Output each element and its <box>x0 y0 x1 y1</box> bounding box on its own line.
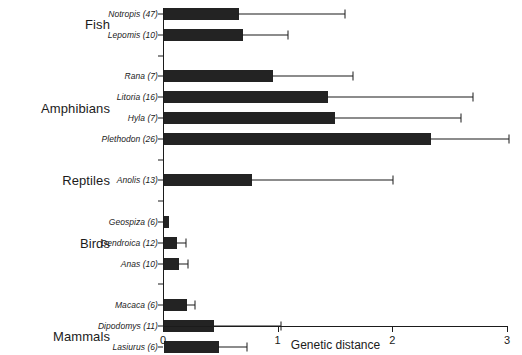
taxon-label: Lepomis (10) <box>108 30 158 40</box>
x-axis-line <box>163 326 508 327</box>
taxon-label: Litoria (16) <box>117 92 158 102</box>
taxon-label: Anas (10) <box>121 259 158 269</box>
x-axis-tick <box>278 326 279 332</box>
bar <box>164 8 239 20</box>
error-bar-line <box>176 242 186 243</box>
taxon-label: Anolis (13) <box>117 175 158 185</box>
x-axis-tick <box>507 326 508 332</box>
y-axis-tick <box>158 305 163 306</box>
error-bar-cap <box>185 238 186 247</box>
error-bar-line <box>238 14 346 15</box>
taxon-label: Geospiza (6) <box>109 217 158 227</box>
y-axis-tick <box>158 201 163 202</box>
taxon-label: Plethodon (26) <box>102 134 158 144</box>
error-bar-cap <box>345 10 346 19</box>
bar <box>164 29 243 41</box>
error-bar-cap <box>353 72 354 81</box>
error-bar-cap <box>393 176 394 185</box>
bar <box>164 112 335 124</box>
y-axis-tick <box>158 55 163 56</box>
bar <box>164 174 252 186</box>
taxon-label: Rana (7) <box>125 71 158 81</box>
error-bar-cap <box>461 114 462 123</box>
x-axis-tick <box>392 326 393 332</box>
x-axis-tick <box>163 326 164 332</box>
y-axis-tick <box>158 118 163 119</box>
bar <box>164 216 169 228</box>
error-bar-line <box>334 118 461 119</box>
error-bar-cap <box>472 93 473 102</box>
taxon-label: Dendroica (12) <box>101 238 158 248</box>
error-bar-line <box>251 180 393 181</box>
error-bar-cap <box>195 301 196 310</box>
bar <box>164 258 179 270</box>
error-bar-line <box>178 263 188 264</box>
y-axis-tick <box>158 34 163 35</box>
y-axis-tick <box>158 222 163 223</box>
error-bar-cap <box>509 134 510 143</box>
y-axis-tick <box>158 76 163 77</box>
genetic-distance-bar-chart: FishAmphibiansReptilesBirdsMammals Notro… <box>0 0 522 355</box>
taxon-label: Hyla (7) <box>128 113 158 123</box>
y-axis-tick <box>158 263 163 264</box>
bar <box>164 70 273 82</box>
bar <box>164 133 431 145</box>
y-axis-tick <box>158 14 163 15</box>
bar <box>164 91 328 103</box>
y-axis-tick <box>158 284 163 285</box>
y-axis-tick <box>158 180 163 181</box>
error-bar-cap <box>287 30 288 39</box>
taxon-label: Macaca (6) <box>115 300 158 310</box>
error-bar-line <box>327 97 473 98</box>
taxon-label-column: Notropis (47)Lepomis (10)Rana (7)Litoria… <box>84 0 158 355</box>
error-bar-line <box>430 138 509 139</box>
taxon-label: Lasiurus (6) <box>113 342 158 352</box>
taxon-label: Notropis (47) <box>108 9 158 19</box>
error-bar-line <box>242 34 288 35</box>
y-axis-tick <box>158 138 163 139</box>
taxon-label: Dipodomys (11) <box>98 321 158 331</box>
plot-area <box>163 0 507 326</box>
error-bar-cap <box>188 259 189 268</box>
error-bar-line <box>272 76 353 77</box>
bar <box>164 299 187 311</box>
y-axis-tick <box>158 242 163 243</box>
y-axis-tick <box>158 97 163 98</box>
y-axis-tick <box>158 159 163 160</box>
y-axis-line <box>163 8 164 326</box>
x-axis-label: Genetic distance <box>163 338 508 352</box>
